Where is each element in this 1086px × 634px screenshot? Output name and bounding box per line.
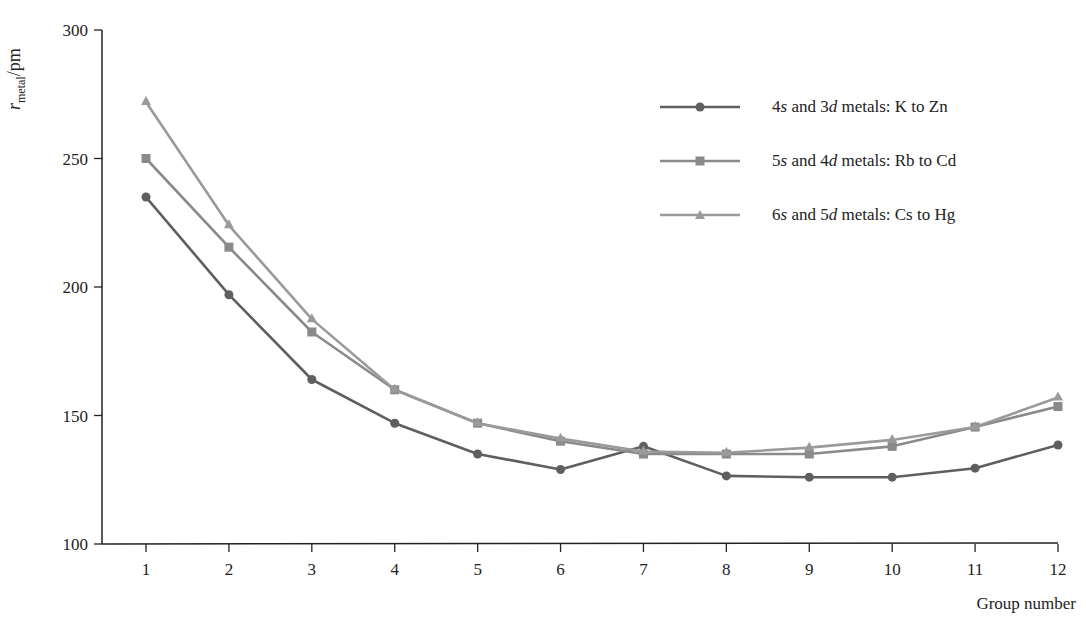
legend-item-4s3d: 4s and 3d metals: K to Zn (660, 80, 956, 134)
y-tick-label: 150 (63, 407, 89, 426)
legend-label: 6s and 5d metals: Cs to Hg (772, 205, 955, 225)
x-tick-label: 12 (1050, 560, 1067, 579)
data-point (390, 419, 399, 428)
data-point (141, 96, 151, 105)
x-tick-label: 1 (142, 560, 151, 579)
x-tick-label: 8 (722, 560, 731, 579)
data-point (224, 243, 233, 252)
data-point (888, 442, 897, 451)
y-axis-unit: /pm (4, 48, 24, 76)
circle-marker-icon (660, 100, 740, 114)
square-marker-icon (660, 154, 740, 168)
data-point (722, 471, 731, 480)
x-tick-label: 6 (556, 560, 565, 579)
x-axis-line (102, 543, 1058, 544)
data-point (888, 473, 897, 482)
x-tick-label: 7 (639, 560, 648, 579)
y-axis-subscript: metal (14, 76, 28, 103)
triangle-marker-icon (660, 208, 740, 222)
data-point (971, 464, 980, 473)
y-tick-label: 250 (63, 150, 89, 169)
x-tick-label: 9 (805, 560, 814, 579)
legend-label: 5s and 4d metals: Rb to Cd (772, 151, 956, 171)
data-point (142, 154, 151, 163)
data-point (224, 290, 233, 299)
x-tick-label: 5 (473, 560, 482, 579)
y-axis-symbol: r (4, 103, 24, 110)
data-point (1054, 441, 1063, 450)
data-point (142, 193, 151, 202)
x-tick-label: 2 (225, 560, 234, 579)
data-point (1053, 392, 1063, 401)
data-point (556, 465, 565, 474)
y-axis-label: rmetal/pm (4, 48, 29, 110)
x-tick-label: 3 (308, 560, 317, 579)
y-tick-label: 200 (63, 278, 89, 297)
x-tick-label: 4 (390, 560, 399, 579)
data-point (805, 473, 814, 482)
data-point (1054, 402, 1063, 411)
legend-label: 4s and 3d metals: K to Zn (772, 97, 948, 117)
x-tick-label: 11 (967, 560, 983, 579)
y-tick-label: 300 (63, 21, 89, 40)
data-point (307, 327, 316, 336)
legend-item-5s4d: 5s and 4d metals: Rb to Cd (660, 134, 956, 188)
legend: 4s and 3d metals: K to Zn 5s and 4d meta… (660, 80, 956, 242)
data-point (307, 375, 316, 384)
data-point (473, 450, 482, 459)
legend-item-6s5d: 6s and 5d metals: Cs to Hg (660, 188, 956, 242)
x-axis-label: Group number (976, 594, 1076, 614)
data-point (805, 450, 814, 459)
x-tick-label: 10 (884, 560, 901, 579)
y-tick-label: 100 (63, 535, 89, 554)
